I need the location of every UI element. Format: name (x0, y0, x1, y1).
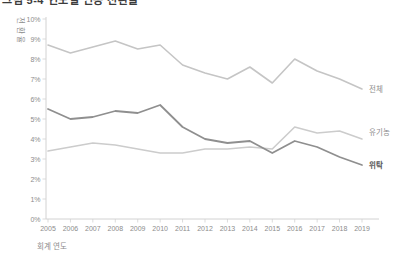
x-tick-label: 2006 (63, 225, 79, 232)
x-tick-label: 2009 (130, 225, 146, 232)
x-tick-label: 2005 (40, 225, 56, 232)
y-tick-label: 3% (30, 156, 40, 163)
clipped-figure-title: 그림 5-4 연도별 인증 전환율 (2, 0, 139, 6)
x-axis-ticks (48, 219, 362, 223)
y-tick-label: 7% (30, 76, 40, 83)
chart-svg: 그림 5-4 연도별 인증 전환율 전환율 0%1%2%3%4%5%6%7%8%… (0, 0, 405, 260)
y-tick-label: 5% (30, 116, 40, 123)
x-axis-tick-labels: 2005200620072008200920102011201220132014… (40, 225, 370, 232)
series-label-유기농: 유기농 (369, 128, 390, 137)
x-tick-label: 2014 (242, 225, 258, 232)
x-tick-label: 2008 (107, 225, 123, 232)
x-tick-label: 2012 (197, 225, 213, 232)
line-chart: 그림 5-4 연도별 인증 전환율 전환율 0%1%2%3%4%5%6%7%8%… (0, 0, 405, 260)
y-tick-label: 1% (30, 196, 40, 203)
x-tick-label: 2015 (264, 225, 280, 232)
x-tick-label: 2016 (287, 225, 303, 232)
x-tick-label: 2010 (152, 225, 168, 232)
x-tick-label: 2007 (85, 225, 101, 232)
series-line-유기농 (48, 127, 362, 153)
y-tick-label: 9% (30, 36, 40, 43)
x-tick-label: 2011 (175, 225, 190, 232)
x-tick-label: 2019 (354, 225, 370, 232)
y-tick-label: 0% (30, 216, 40, 223)
y-tick-label: 4% (30, 136, 40, 143)
series-label-위탁: 위탁 (369, 160, 383, 170)
y-axis-tick-labels: 0%1%2%3%4%5%6%7%8%9%10% (26, 16, 40, 223)
y-tick-label: 8% (30, 56, 40, 63)
series-label-전체: 전체 (369, 84, 383, 94)
y-tick-label: 2% (30, 176, 40, 183)
y-axis-title: 전환율 (16, 17, 26, 46)
x-axis-title: 회계 연도 (37, 241, 67, 251)
series-end-labels: 전체유기농위탁 (369, 84, 390, 170)
y-axis-ticks (43, 19, 47, 219)
y-tick-label: 6% (30, 96, 40, 103)
x-tick-label: 2013 (220, 225, 236, 232)
x-tick-label: 2018 (332, 225, 348, 232)
series-line-전체 (48, 41, 362, 89)
x-tick-label: 2017 (309, 225, 325, 232)
data-series-lines (48, 41, 362, 165)
series-line-위탁 (48, 105, 362, 165)
y-tick-label: 10% (26, 16, 40, 23)
